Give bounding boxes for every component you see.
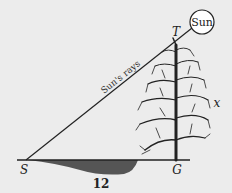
- similar-triangles-diagram: Sun T S G x 12 Sun's rays: [0, 0, 232, 193]
- tree-icon: [136, 38, 210, 160]
- tree-height-label: x: [214, 96, 221, 110]
- tree-shadow: [28, 160, 138, 175]
- point-g-label: G: [172, 163, 182, 177]
- point-s-label: S: [20, 163, 28, 177]
- sun-label: Sun: [191, 16, 213, 29]
- shadow-length-label: 12: [93, 177, 110, 191]
- point-t-label: T: [172, 25, 181, 39]
- sun-rays-label: Sun's rays: [99, 58, 142, 95]
